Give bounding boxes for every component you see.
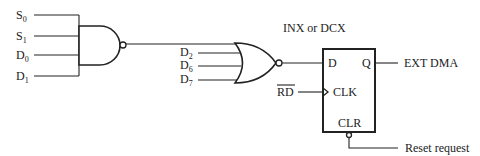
input-label-d1: D1: [16, 69, 29, 85]
clr-pin-label: CLR: [338, 116, 361, 130]
nand-gate: [79, 26, 120, 65]
input-label-d7: D7: [180, 72, 193, 88]
d-pin-label: D: [328, 56, 337, 70]
input-label-s0: S0: [16, 8, 27, 24]
nand-bubble: [120, 42, 126, 48]
flipflop-title: INX or DCX: [283, 21, 346, 35]
input-label-d0: D0: [16, 48, 29, 64]
clk-pin-label: CLK: [333, 85, 357, 99]
nand-inputs: [34, 15, 79, 76]
output-label-ext-dma: EXT DMA: [404, 56, 458, 70]
nor-gate: [235, 43, 276, 83]
clr-wire: [349, 138, 398, 149]
input-label-s1: S1: [16, 29, 27, 45]
logic-diagram: S0 S1 D0 D1 D2 D6 D7 INX or DCX D Q CLK …: [0, 0, 480, 156]
q-pin-label: Q: [362, 56, 371, 70]
rd-label: RD: [277, 85, 294, 99]
reset-request-label: Reset request: [405, 141, 470, 155]
nor-bubble: [276, 60, 282, 66]
clr-bubble: [347, 133, 352, 138]
